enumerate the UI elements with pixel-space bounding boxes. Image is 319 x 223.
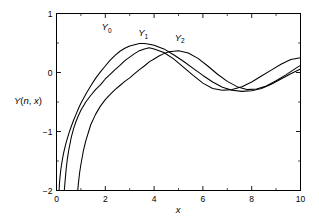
x-tick-label: 4 [152, 194, 157, 204]
x-tick-label: 0 [54, 194, 59, 204]
bessel-y-plot: 024681010−1−2 Y0Y1Y2 Y(n, x) x [0, 0, 319, 223]
y-tick-label: −2 [43, 186, 53, 196]
curve-annotations: Y0Y1Y2 [102, 21, 186, 44]
y-tick-label: −1 [43, 127, 53, 137]
curve-label-subscript: 0 [108, 27, 112, 34]
x-tick-label: 2 [103, 194, 108, 204]
curve-label-subscript: 2 [181, 37, 185, 44]
curve-Y0 [59, 44, 300, 191]
curve-label-Y1: Y1 [138, 27, 148, 40]
y-axis-title: Y(n, x) [14, 95, 42, 106]
x-tick-label: 8 [249, 194, 254, 204]
x-tick-label: 10 [296, 194, 306, 204]
data-curves [59, 44, 300, 191]
x-tick-label: 6 [201, 194, 206, 204]
curve-label-subscript: 1 [144, 33, 148, 40]
curve-label-Y2: Y2 [175, 32, 185, 45]
y-tick-label: 0 [48, 68, 53, 78]
chart-figure: 024681010−1−2 Y0Y1Y2 Y(n, x) x [0, 0, 319, 223]
y-tick-label: 1 [48, 9, 53, 19]
curve-label-Y0: Y0 [102, 21, 112, 34]
curve-Y1 [64, 48, 300, 191]
y-axis-title-paren-close: ) [39, 95, 42, 106]
x-axis-title: x [175, 204, 182, 215]
